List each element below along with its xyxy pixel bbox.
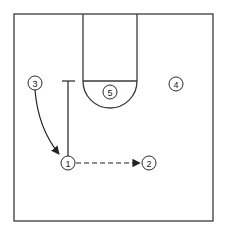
- player-2: 2: [142, 156, 156, 170]
- player-1: 1: [61, 156, 75, 170]
- player-4: 4: [169, 77, 183, 91]
- svg-text:1: 1: [65, 159, 70, 169]
- cut-arrow-3-to-1: [35, 90, 59, 154]
- svg-text:2: 2: [146, 159, 151, 169]
- player-3: 3: [28, 76, 42, 90]
- svg-text:4: 4: [173, 80, 178, 90]
- player-5: 5: [103, 85, 117, 99]
- svg-text:5: 5: [107, 88, 112, 98]
- screen-action: [62, 81, 75, 156]
- court-boundary: [14, 14, 213, 221]
- court-diagram: 1 2 3 4 5: [0, 0, 225, 234]
- svg-text:3: 3: [32, 79, 37, 89]
